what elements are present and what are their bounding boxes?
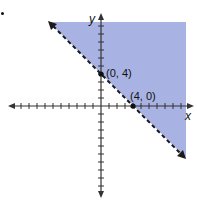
point-4-0-label: (4, 0) xyxy=(130,91,156,102)
x-axis-left-arrow-icon xyxy=(8,103,15,109)
point-0-4 xyxy=(98,71,103,76)
x-axis-label: x xyxy=(185,110,191,122)
point-4-0 xyxy=(130,103,135,108)
y-axis-bottom-arrow-icon xyxy=(98,191,104,198)
y-axis-top-arrow-icon xyxy=(98,13,104,20)
inequality-graph xyxy=(0,0,197,202)
y-axis-label: y xyxy=(89,13,95,25)
point-0-4-label: (0, 4) xyxy=(106,68,132,79)
